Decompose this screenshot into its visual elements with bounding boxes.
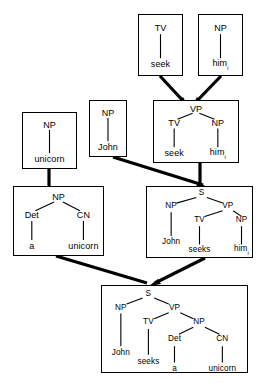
leaf-label: John xyxy=(162,237,180,245)
node-label: NP xyxy=(211,118,224,127)
leaf-label: himi xyxy=(234,245,249,255)
leaf-label: seeks xyxy=(137,358,159,366)
node-label: TV xyxy=(168,118,180,127)
node-label: TV xyxy=(194,216,205,224)
node-label: VP xyxy=(222,202,233,210)
leaf-label: unicorn xyxy=(209,364,237,372)
tree-box-s-john-seeks-him: S NP VP TV NP John seeks himi xyxy=(146,186,253,258)
node-label: TV xyxy=(143,318,154,326)
connector-det-cn-to-s-unicorn xyxy=(56,256,147,283)
leaf-subscript: i xyxy=(248,250,249,256)
node-label: Det xyxy=(168,335,181,343)
node-label: NP xyxy=(52,193,65,202)
node-label: S xyxy=(146,290,152,298)
node-label: NP xyxy=(102,108,115,117)
node-label: Det xyxy=(25,210,39,219)
leaf-label: John xyxy=(98,142,118,151)
node-label: TV xyxy=(155,24,167,33)
node-label: NP xyxy=(43,120,56,129)
node-label: NP xyxy=(193,318,205,326)
leaf-label: unicorn xyxy=(68,242,98,251)
node-label: CN xyxy=(216,335,228,343)
leaf-label: seeks xyxy=(189,246,211,254)
leaf-label: John xyxy=(112,349,130,357)
tree-box-s-john-seeks-a-unicorn: S NP VP TV NP Det CN John seeks a unicor… xyxy=(101,285,248,373)
leaf-label: himi xyxy=(212,59,228,70)
tree-box-vp: VP TV NP seek himi xyxy=(153,100,239,163)
node-label: NP xyxy=(214,24,227,33)
leaf-text: him xyxy=(212,58,227,68)
node-label: NP xyxy=(165,202,177,210)
node-label: NP xyxy=(115,303,127,311)
node-label: VP xyxy=(190,104,202,113)
tree-box-np-unicorn: NP unicorn xyxy=(22,112,77,169)
leaf-label: a xyxy=(29,242,34,251)
node-label: NP xyxy=(236,216,248,224)
branch-lines xyxy=(102,286,247,372)
tree-box-np-john: NP John xyxy=(89,100,127,157)
leaf-label: seek xyxy=(151,60,170,69)
tree-box-np-det-cn: NP Det CN a unicorn xyxy=(13,186,104,256)
connector-s-him-to-s-unicorn xyxy=(149,258,205,286)
leaf-text: him xyxy=(210,146,225,156)
leaf-label: a xyxy=(172,364,177,372)
node-label: VP xyxy=(169,303,180,311)
node-label: S xyxy=(199,189,205,197)
diagram-canvas: TV seek NP himi NP unicorn NP John VP xyxy=(0,0,267,383)
tree-box-tv-seek: TV seek xyxy=(138,14,183,76)
tree-box-np-him: NP himi xyxy=(198,14,243,76)
node-label: CN xyxy=(77,210,90,219)
leaf-label: unicorn xyxy=(34,154,64,163)
leaf-label: himi xyxy=(210,147,226,158)
leaf-label: seek xyxy=(164,148,183,157)
leaf-text: him xyxy=(234,244,248,253)
